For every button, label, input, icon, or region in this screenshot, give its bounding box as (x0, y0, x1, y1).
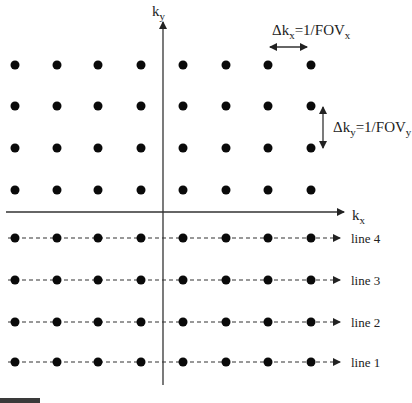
sample-dot (179, 358, 188, 367)
readout-line: line 3 (8, 273, 380, 288)
sample-dot (179, 144, 188, 153)
sample-dot (11, 186, 20, 195)
k-space-diagram: ky kx Δkx=1/FOVx Δky=1/FOVy line 4line 3… (0, 0, 412, 403)
sample-dot (307, 144, 316, 153)
readout-line-label: line 1 (351, 355, 380, 370)
sample-dot (222, 358, 231, 367)
sample-dot (53, 276, 62, 285)
sample-dot (137, 358, 146, 367)
sample-dot (307, 186, 316, 195)
delta-kx-label: Δkx=1/FOVx (272, 22, 351, 41)
sample-dot (264, 234, 273, 243)
readout-lines: line 4line 3line 2line 1 (8, 231, 381, 370)
sample-dot (179, 61, 188, 70)
sample-dot (94, 144, 103, 153)
sample-dot (179, 102, 188, 111)
sample-dot (264, 102, 273, 111)
corner-scale-bar (0, 398, 40, 403)
sample-dot (137, 234, 146, 243)
readout-line-label: line 3 (351, 273, 380, 288)
sample-dot (307, 318, 316, 327)
sample-dot (222, 318, 231, 327)
kx-axis-label: kx (352, 207, 366, 226)
sample-dot (222, 276, 231, 285)
sample-dot (264, 276, 273, 285)
sample-dot (264, 144, 273, 153)
sample-dot (264, 318, 273, 327)
sample-dot (264, 61, 273, 70)
sample-dot (53, 318, 62, 327)
sample-dot (179, 234, 188, 243)
sample-dot (307, 61, 316, 70)
sample-dot (137, 61, 146, 70)
sample-dot (53, 234, 62, 243)
sample-dot (94, 276, 103, 285)
readout-line: line 2 (8, 315, 380, 330)
sample-dot (137, 318, 146, 327)
delta-ky-label: Δky=1/FOVy (333, 119, 412, 138)
sample-dot (222, 186, 231, 195)
sample-dot (11, 61, 20, 70)
ky-axis-label: ky (152, 3, 166, 22)
sample-dot (11, 102, 20, 111)
sample-dot (264, 358, 273, 367)
sample-dot (53, 61, 62, 70)
sample-dot (307, 102, 316, 111)
sample-dot (53, 144, 62, 153)
sample-dot (137, 276, 146, 285)
sample-dot (307, 276, 316, 285)
sample-dot (222, 144, 231, 153)
sample-dot (94, 186, 103, 195)
sample-dot (11, 276, 20, 285)
readout-line: line 4 (8, 231, 381, 246)
sample-dot (94, 234, 103, 243)
sample-dot (11, 318, 20, 327)
readout-line-label: line 4 (351, 231, 381, 246)
sample-dot (53, 102, 62, 111)
readout-line: line 1 (8, 355, 380, 370)
sample-dot (94, 102, 103, 111)
sample-dot (179, 186, 188, 195)
sample-dot (11, 144, 20, 153)
sample-dot (222, 102, 231, 111)
readout-line-label: line 2 (351, 315, 380, 330)
sample-dot (222, 234, 231, 243)
sample-dot (137, 186, 146, 195)
sample-dot (179, 276, 188, 285)
sample-dot (53, 358, 62, 367)
sample-dot (179, 318, 188, 327)
sample-dot (94, 318, 103, 327)
sample-dot (264, 186, 273, 195)
sample-dot (307, 358, 316, 367)
sample-dot (222, 61, 231, 70)
sample-dot (307, 234, 316, 243)
sample-dot (11, 358, 20, 367)
sample-dot (94, 358, 103, 367)
sample-dot (94, 61, 103, 70)
sample-dot (53, 186, 62, 195)
sample-dot (11, 234, 20, 243)
sample-dot (137, 144, 146, 153)
sample-dot (137, 102, 146, 111)
